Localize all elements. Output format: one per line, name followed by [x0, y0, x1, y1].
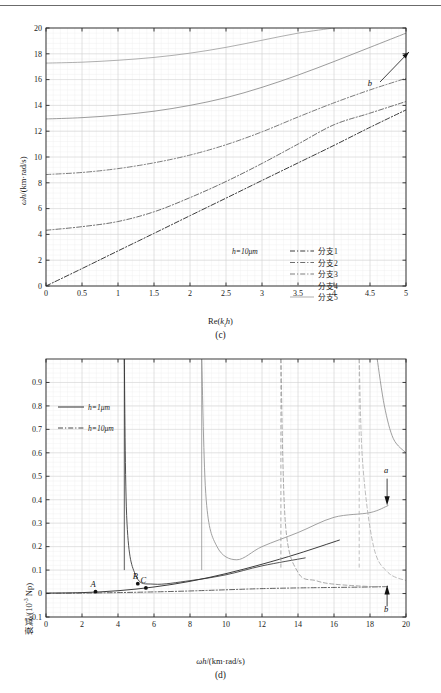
figure-caption-d: (d) [0, 670, 441, 680]
y-axis-label-d: 衰减/(10-3 Np) [22, 583, 34, 635]
svg-text:A: A [89, 579, 96, 589]
figure-c: 00.511.522.533.544.5502468101214161820h=… [0, 10, 441, 340]
annotation-b-d: b [384, 604, 388, 614]
legend-label-c-4: 分支4 [318, 281, 338, 291]
svg-text:0: 0 [38, 282, 42, 291]
svg-text:4: 4 [116, 620, 120, 629]
svg-text:8: 8 [38, 179, 42, 188]
svg-text:12: 12 [34, 127, 42, 136]
svg-text:0.5: 0.5 [32, 472, 42, 481]
figure-page: 00.511.522.533.544.5502468101214161820h=… [0, 0, 441, 693]
svg-text:0.4: 0.4 [32, 496, 42, 505]
svg-text:2: 2 [38, 256, 42, 265]
svg-text:6: 6 [38, 204, 42, 213]
svg-text:16: 16 [34, 75, 42, 84]
svg-text:5: 5 [404, 289, 408, 298]
svg-text:18: 18 [34, 50, 42, 59]
x-axis-label-c: Re(kth) [0, 316, 441, 328]
svg-text:0: 0 [44, 289, 48, 298]
annotation-b-c: b [368, 78, 372, 88]
top-rule [0, 5, 441, 6]
svg-text:10: 10 [222, 620, 230, 629]
plot-d: ABC02468101214161820-0.100.10.20.30.40.5… [0, 345, 441, 650]
figure-caption-c: (c) [0, 330, 441, 340]
legend-label-d-1: h=1μm [88, 403, 111, 412]
svg-text:12: 12 [258, 620, 266, 629]
svg-text:14: 14 [34, 101, 42, 110]
svg-text:0: 0 [38, 589, 42, 598]
svg-text:1.5: 1.5 [149, 289, 159, 298]
svg-text:B: B [133, 571, 138, 581]
svg-text:4.5: 4.5 [365, 289, 375, 298]
svg-text:1: 1 [116, 289, 120, 298]
x-axis-label-d: ωh/(km·rad/s) [0, 656, 441, 666]
svg-text:0.9: 0.9 [32, 378, 42, 387]
svg-text:0.8: 0.8 [32, 402, 42, 411]
plot-d-canvas: ABC02468101214161820-0.100.10.20.30.40.5… [0, 345, 441, 650]
figure-d: ABC02468101214161820-0.100.10.20.30.40.5… [0, 345, 441, 690]
svg-text:2: 2 [80, 620, 84, 629]
svg-text:0.6: 0.6 [32, 449, 42, 458]
annotation-a-d: a [384, 465, 388, 475]
legend-label-c-2: 分支2 [318, 258, 338, 268]
svg-text:3: 3 [260, 289, 264, 298]
svg-text:C: C [141, 575, 147, 585]
legend-label-c-5: 分支5 [318, 292, 338, 302]
y-axis-label-c: ωh/(km·rad/s) [18, 156, 28, 205]
svg-text:0.5: 0.5 [77, 289, 87, 298]
legend-note-c: h=10μm [232, 247, 258, 256]
svg-text:0.1: 0.1 [32, 566, 42, 575]
svg-text:10: 10 [34, 153, 42, 162]
legend-label-c-3: 分支3 [318, 269, 338, 279]
svg-text:8: 8 [188, 620, 192, 629]
svg-text:6: 6 [152, 620, 156, 629]
svg-text:2: 2 [188, 289, 192, 298]
svg-text:0.7: 0.7 [32, 425, 42, 434]
svg-text:16: 16 [330, 620, 338, 629]
svg-text:20: 20 [402, 620, 410, 629]
svg-text:0: 0 [44, 620, 48, 629]
svg-text:0.3: 0.3 [32, 519, 42, 528]
svg-text:0.2: 0.2 [32, 542, 42, 551]
legend-label-d-2: h=10μm [88, 424, 114, 433]
svg-text:2.5: 2.5 [221, 289, 231, 298]
svg-text:14: 14 [294, 620, 302, 629]
svg-text:4: 4 [38, 230, 42, 239]
svg-text:18: 18 [366, 620, 374, 629]
svg-text:20: 20 [34, 24, 42, 33]
legend-label-c-1: 分支1 [318, 246, 338, 256]
plot-c: 00.511.522.533.544.5502468101214161820h=… [0, 10, 441, 310]
plot-c-canvas: 00.511.522.533.544.5502468101214161820h=… [0, 10, 441, 310]
